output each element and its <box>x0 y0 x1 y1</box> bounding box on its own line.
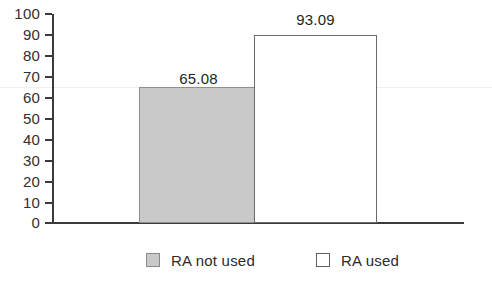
y-tick-mark <box>45 76 52 78</box>
y-tick-mark <box>45 160 52 162</box>
plot-area: 100 90 80 70 60 50 40 30 <box>0 0 492 240</box>
bar-ra-used[interactable] <box>254 35 377 223</box>
y-tick-label-30: 30 <box>23 151 40 170</box>
y-tick-label-40: 40 <box>23 130 40 149</box>
legend-swatch-white-square-icon <box>316 253 330 267</box>
bar-value-ra-not-used: 65.08 <box>139 70 258 88</box>
y-axis-line <box>52 14 54 224</box>
y-tick-label-100: 100 <box>14 4 40 23</box>
y-tick-label-70: 70 <box>23 67 40 86</box>
y-tick-label-10: 10 <box>23 193 40 212</box>
y-tick-mark <box>45 55 52 57</box>
y-tick-mark <box>45 118 52 120</box>
y-tick-mark <box>45 97 52 99</box>
y-tick-label-80: 80 <box>23 46 40 65</box>
y-tick-label-60: 60 <box>23 88 40 107</box>
y-tick-mark <box>45 13 52 15</box>
chart-legend: RA not used RA used <box>0 248 492 283</box>
y-tick-mark <box>45 181 52 183</box>
legend-label-ra-used: RA used <box>341 251 399 270</box>
legend-label-ra-not-used: RA not used <box>171 251 255 270</box>
y-tick-label-20: 20 <box>23 172 40 191</box>
bar-value-ra-used: 93.09 <box>254 11 377 29</box>
bar-chart: 100 90 80 70 60 50 40 30 <box>0 0 492 283</box>
legend-swatch-gray-square-icon <box>146 253 160 267</box>
legend-item-ra-not-used[interactable]: RA not used <box>146 248 255 272</box>
y-tick-mark <box>45 202 52 204</box>
y-tick-mark <box>45 222 52 224</box>
y-tick-mark <box>45 139 52 141</box>
legend-item-ra-used[interactable]: RA used <box>316 248 399 272</box>
y-tick-mark <box>45 34 52 36</box>
y-tick-label-90: 90 <box>23 25 40 44</box>
y-tick-label-50: 50 <box>23 109 40 128</box>
y-tick-label-0: 0 <box>31 213 40 232</box>
bar-ra-not-used[interactable] <box>139 87 258 223</box>
